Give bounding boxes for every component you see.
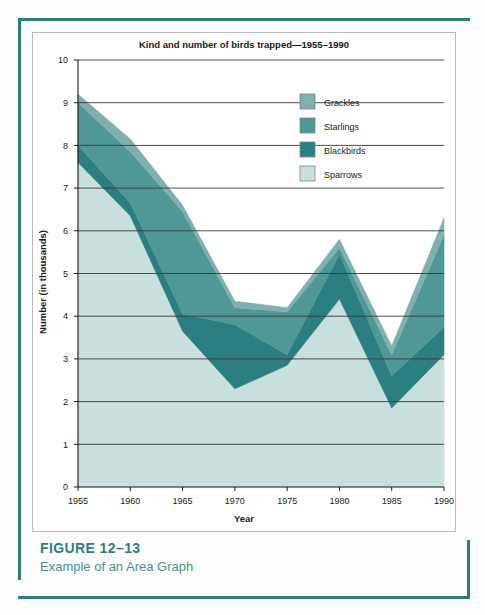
y-tick-label-4: 4 xyxy=(63,311,68,321)
figure-caption: FIGURE 12–13 Example of an Area Graph xyxy=(40,540,440,574)
y-axis-label: Number (in thousands) xyxy=(37,230,48,334)
legend-swatch-grackles xyxy=(300,94,315,109)
legend-label-sparrows: Sparrows xyxy=(324,170,363,180)
x-tick-label-1990: 1990 xyxy=(434,496,454,506)
legend-label-grackles: Grackles xyxy=(324,98,360,108)
x-axis-label: Year xyxy=(234,513,254,524)
y-tick-label-10: 10 xyxy=(58,55,68,65)
y-tick-label-0: 0 xyxy=(63,482,68,492)
x-tick-label-1985: 1985 xyxy=(382,496,402,506)
frame-rule-top xyxy=(18,18,470,21)
y-tick-label-6: 6 xyxy=(63,226,68,236)
legend: GracklesStarlingsBlackbirdsSparrows xyxy=(300,94,366,181)
x-tick-label-1975: 1975 xyxy=(277,496,297,506)
figure-page: 012345678910 195519601965197019751980198… xyxy=(0,0,485,615)
y-tick-label-5: 5 xyxy=(63,269,68,279)
x-tick-label-1970: 1970 xyxy=(225,496,245,506)
x-tick-label-1965: 1965 xyxy=(173,496,193,506)
figure-caption-subtitle: Example of an Area Graph xyxy=(40,559,440,574)
area-chart: 012345678910 195519601965197019751980198… xyxy=(32,32,456,532)
y-tick-label-3: 3 xyxy=(63,354,68,364)
y-tick-label-2: 2 xyxy=(63,397,68,407)
y-tick-label-1: 1 xyxy=(63,440,68,450)
legend-swatch-starlings xyxy=(300,118,315,133)
frame-rule-right xyxy=(467,540,470,598)
legend-swatch-blackbirds xyxy=(300,142,315,157)
legend-label-blackbirds: Blackbirds xyxy=(324,146,366,156)
frame-rule-left xyxy=(18,18,21,580)
y-tick-label-8: 8 xyxy=(63,141,68,151)
x-tick-label-1955: 1955 xyxy=(68,496,88,506)
plot-series-group xyxy=(78,94,444,487)
chart-title: Kind and number of birds trapped—1955–19… xyxy=(139,39,349,50)
y-tick-label-7: 7 xyxy=(63,183,68,193)
x-tick-label-group: 19551960196519701975198019851990 xyxy=(68,487,454,506)
legend-swatch-sparrows xyxy=(300,166,315,181)
x-tick-label-1980: 1980 xyxy=(329,496,349,506)
y-tick-label-9: 9 xyxy=(63,98,68,108)
figure-caption-title: FIGURE 12–13 xyxy=(40,540,440,556)
legend-label-starlings: Starlings xyxy=(324,122,360,132)
y-tick-label-group: 012345678910 xyxy=(58,55,78,492)
frame-rule-bottom xyxy=(18,596,470,599)
x-tick-label-1960: 1960 xyxy=(120,496,140,506)
area-chart-svg: 012345678910 195519601965197019751980198… xyxy=(32,32,456,532)
